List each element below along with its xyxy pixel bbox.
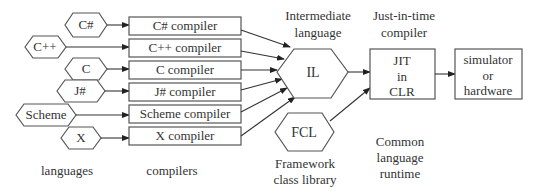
jit-label: CLR bbox=[389, 84, 415, 99]
language-hex-x: X bbox=[61, 127, 101, 149]
compiler-label: C# compiler bbox=[153, 18, 218, 33]
arrow bbox=[241, 30, 290, 47]
target-label: or bbox=[483, 68, 495, 83]
language-label: C++ bbox=[33, 39, 56, 54]
compiler-label: J# compiler bbox=[154, 84, 216, 99]
jit-box: JIT in CLR bbox=[370, 49, 435, 99]
il-caption: Intermediate bbox=[285, 8, 351, 23]
compiler-box-c: C compiler bbox=[129, 61, 241, 79]
compiler-label: X compiler bbox=[156, 128, 216, 143]
compiler-label: C compiler bbox=[156, 62, 215, 77]
jit-label: in bbox=[397, 69, 408, 84]
clr-caption: runtime bbox=[380, 166, 421, 181]
il-hex: IL bbox=[277, 49, 348, 98]
compiler-box-scheme: Scheme compiler bbox=[129, 105, 241, 123]
language-label: C bbox=[82, 61, 91, 76]
target-label: simulator bbox=[463, 52, 513, 67]
language-hex-cpp: C++ bbox=[25, 36, 66, 58]
compiler-label: C++ compiler bbox=[149, 40, 222, 55]
compiler-box-x: X compiler bbox=[129, 127, 241, 145]
clr-caption: language bbox=[377, 150, 424, 165]
language-hex-scheme: Scheme bbox=[16, 104, 76, 126]
dotnet-compilation-diagram: C# C++ C J# Scheme X C# compiler C++ com… bbox=[0, 0, 534, 193]
jit-caption: Just-in-time bbox=[373, 8, 435, 23]
arrow bbox=[241, 79, 282, 90]
compiler-box-jsharp: J# compiler bbox=[129, 83, 241, 101]
language-hex-jsharp: J# bbox=[57, 80, 105, 102]
jit-label: JIT bbox=[393, 53, 410, 68]
language-hex-c: C bbox=[65, 58, 107, 80]
compilers-column-label: compilers bbox=[146, 163, 197, 178]
fcl-caption: Framework bbox=[275, 156, 335, 171]
arrow bbox=[330, 88, 370, 121]
clr-caption: Common bbox=[376, 134, 425, 149]
compiler-box-csharp: C# compiler bbox=[129, 17, 241, 35]
language-label: J# bbox=[74, 83, 86, 98]
fcl-hex: FCL bbox=[275, 113, 334, 151]
language-label: C# bbox=[78, 17, 94, 32]
arrow bbox=[241, 51, 284, 59]
il-caption: language bbox=[295, 25, 342, 40]
compiler-box-cpp: C++ compiler bbox=[129, 39, 241, 57]
il-label: IL bbox=[306, 65, 319, 80]
fcl-caption: class library bbox=[273, 172, 337, 187]
language-label: Scheme bbox=[25, 107, 66, 122]
fcl-label: FCL bbox=[291, 125, 317, 140]
languages-column-label: languages bbox=[41, 163, 93, 178]
compiler-label: Scheme compiler bbox=[140, 106, 231, 121]
language-label: X bbox=[76, 130, 86, 145]
target-box: simulator or hardware bbox=[455, 49, 522, 99]
jit-caption: compiler bbox=[381, 25, 428, 40]
target-label: hardware bbox=[464, 83, 513, 98]
language-hex-csharp: C# bbox=[65, 13, 107, 37]
